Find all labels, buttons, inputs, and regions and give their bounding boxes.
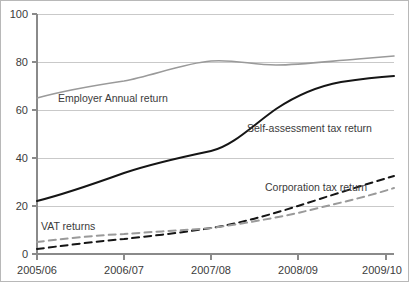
series-line-vat-returns [37,188,394,242]
y-tick-label-60: 60 [16,104,28,116]
x-tick-label-2009-10: 2009/10 [362,264,402,276]
x-tick-labels: 2005/06 2006/07 2007/08 2008/09 2009/10 [17,264,402,276]
series-label-vat-returns: VAT returns [41,220,95,232]
series-label-self-assessment-tax-return: Self-assessment tax return [247,122,372,134]
x-tick-label-2006-07: 2006/07 [104,264,144,276]
y-tick-marks [32,14,37,254]
gridlines [37,14,394,206]
y-tick-label-20: 20 [16,200,28,212]
x-tick-marks [37,254,386,260]
y-tick-labels: 100 80 60 40 20 0 [10,8,28,260]
chart-canvas: 100 80 60 40 20 0 2005/06 2006/07 2007/0… [1,1,409,282]
line-chart-figure: 100 80 60 40 20 0 2005/06 2006/07 2007/0… [0,0,409,282]
y-tick-label-80: 80 [16,56,28,68]
y-tick-label-0: 0 [22,248,28,260]
series-label-employer-annual-return: Employer Annual return [58,92,168,104]
series-label-corporation-tax-return: Corporation tax return [265,181,367,193]
x-tick-label-2008-09: 2008/09 [278,264,318,276]
y-tick-label-100: 100 [10,8,28,20]
x-tick-label-2007-08: 2007/08 [191,264,231,276]
x-tick-label-2005-06: 2005/06 [17,264,57,276]
y-tick-label-40: 40 [16,152,28,164]
